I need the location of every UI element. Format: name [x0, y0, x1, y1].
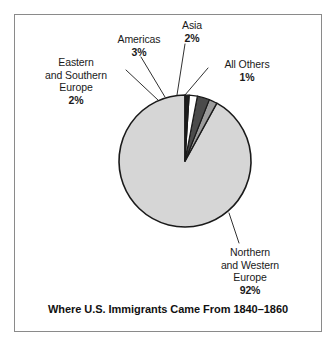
pie-label-line-1: Northern [200, 246, 300, 259]
pie-label-line-2: and Western [200, 259, 300, 272]
pie-label-line-1: All Others [208, 58, 286, 71]
pie-label-percent: 1% [208, 71, 286, 84]
pie-label-line-3: Europe [200, 271, 300, 284]
pie-label-percent: 92% [200, 284, 300, 297]
pie-label-all-others: All Others 1% [208, 58, 286, 83]
pie-label-percent: 2% [172, 32, 212, 45]
leader-line-eastern-southern-europe [126, 70, 158, 100]
pie-slices [119, 95, 251, 227]
pie-label-eastern-southern-europe: Eastern and Southern Europe 2% [28, 56, 124, 106]
pie-label-asia: Asia 2% [172, 19, 212, 44]
leader-line-americas [141, 57, 165, 97]
pie-label-line-3: Europe [28, 81, 124, 94]
leader-line-northern-western-europe [229, 213, 239, 243]
pie-label-percent: 2% [28, 94, 124, 107]
leader-line-all-others [185, 68, 208, 95]
pie-label-line-2: and Southern [28, 69, 124, 82]
leader-line-asia [177, 44, 185, 95]
pie-label-northern-western-europe: Northern and Western Europe 92% [200, 246, 300, 296]
pie-label-line-1: Americas [108, 33, 170, 46]
chart-title: Where U.S. Immigrants Came From 1840–186… [14, 303, 322, 315]
pie-label-americas: Americas 3% [108, 33, 170, 58]
pie-label-percent: 3% [108, 46, 170, 59]
pie-chart-figure: Eastern and Southern Europe 2% Americas … [0, 0, 333, 348]
pie-label-line-1: Asia [172, 19, 212, 32]
